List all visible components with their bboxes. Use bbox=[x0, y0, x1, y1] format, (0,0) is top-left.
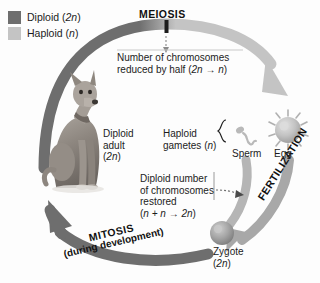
diploid-label: Diploid (2n) bbox=[27, 11, 81, 24]
fertilization-leader bbox=[214, 172, 244, 200]
adult-label-line3-math: 2n bbox=[106, 151, 117, 162]
egg-label: Egg bbox=[274, 148, 292, 160]
zygote-label-line1: Zygote bbox=[213, 246, 244, 257]
fertilization-note-line2: of chromosomes bbox=[140, 185, 214, 196]
fertilization-note-line4-post: ) bbox=[193, 208, 196, 219]
legend-item-diploid: Diploid (2n) bbox=[8, 10, 116, 25]
meiosis-note-line2-math: 2n → n bbox=[192, 64, 224, 75]
haploid-swatch bbox=[8, 27, 21, 40]
meiosis-stage-title: MEIOSIS bbox=[139, 8, 186, 20]
life-cycle-diagram: Diploid (2n) Haploid (n) MEIOSIS FERTILI… bbox=[0, 0, 320, 283]
fertilization-note-line3: restored bbox=[140, 196, 177, 207]
adult-label-line2: adult bbox=[103, 140, 125, 151]
gametes-brace bbox=[218, 120, 226, 142]
fertilization-note-line4-math: n + n → 2n bbox=[143, 208, 192, 219]
adult-label-line3-post: ) bbox=[117, 151, 120, 162]
meiosis-note-line2-post: ) bbox=[224, 64, 227, 75]
sperm-cell bbox=[235, 125, 256, 144]
zygote-label: Zygote (2n) bbox=[213, 246, 244, 269]
gametes-label-line2-pre: gametes ( bbox=[163, 140, 207, 151]
fertilization-note-line1: Diploid number bbox=[140, 173, 207, 184]
meiosis-note-line2-pre: reduced by half ( bbox=[117, 64, 192, 75]
meiosis-note-line1: Number of chromosomes bbox=[117, 52, 229, 63]
zygote-label-line2-post: ) bbox=[227, 258, 230, 269]
legend-item-haploid: Haploid (n) bbox=[8, 26, 116, 41]
diploid-swatch bbox=[8, 11, 21, 24]
gametes-label-line2-post: ) bbox=[213, 140, 216, 151]
cycle-graphic bbox=[0, 0, 320, 283]
diploid-adult-label: Diploid adult (2n) bbox=[103, 128, 134, 163]
adult-label-line1: Diploid bbox=[103, 128, 134, 139]
zygote-label-line2-math: 2n bbox=[216, 258, 227, 269]
legend: Diploid (2n) Haploid (n) bbox=[8, 10, 116, 42]
gametes-label-line1: Haploid bbox=[163, 128, 197, 139]
fertilization-note: Diploid number of chromosomes restored (… bbox=[140, 173, 214, 219]
meiosis-note: Number of chromosomes reduced by half (2… bbox=[117, 52, 229, 75]
haploid-label: Haploid (n) bbox=[27, 27, 78, 40]
haploid-gametes-label: Haploid gametes (n) bbox=[163, 128, 216, 151]
zygote-cell bbox=[210, 221, 234, 245]
sperm-label: Sperm bbox=[232, 148, 261, 160]
